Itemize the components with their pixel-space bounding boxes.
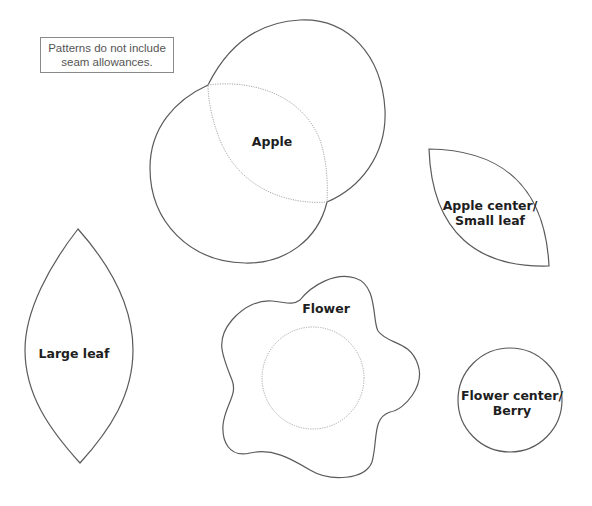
- note-line-1: Patterns do not include: [41, 41, 173, 55]
- pattern-shapes: [0, 0, 592, 506]
- small-leaf-label-line-1: Apple center/: [443, 198, 538, 213]
- flower-label: Flower: [302, 301, 350, 316]
- apple-label-text: Apple: [252, 134, 292, 149]
- apple-label: Apple: [252, 134, 292, 149]
- small-leaf-label-line-2: Small leaf: [443, 213, 538, 228]
- flower-label-text: Flower: [302, 301, 350, 316]
- berry-label-line-2: Berry: [461, 403, 563, 418]
- pattern-sheet: Patterns do not include seam allowances.…: [0, 0, 592, 506]
- small-leaf-label: Apple center/ Small leaf: [443, 198, 538, 228]
- berry-label: Flower center/ Berry: [461, 388, 563, 418]
- flower-center-guide: [262, 327, 364, 429]
- seam-allowance-note: Patterns do not include seam allowances.: [40, 37, 174, 73]
- large-leaf-label-text: Large leaf: [39, 346, 110, 361]
- large-leaf-label: Large leaf: [39, 346, 110, 361]
- note-line-2: seam allowances.: [41, 55, 173, 69]
- berry-label-line-1: Flower center/: [461, 388, 563, 403]
